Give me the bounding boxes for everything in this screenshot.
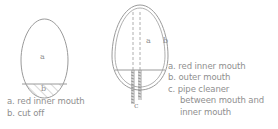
left-label-b: b: [41, 84, 46, 93]
right-legend-c-line3: inner mouth: [180, 107, 231, 117]
pipe-cleaner-fuzzy-1: [131, 70, 134, 104]
right-label-b: b: [163, 36, 168, 45]
left-label-a: a: [40, 52, 45, 61]
right-legend-b: b. outer mouth: [168, 72, 230, 82]
right-legend-a: a. red inner mouth: [168, 61, 246, 71]
right-label-c: c: [134, 101, 138, 110]
pipe-cleaner-fuzzy-2: [138, 70, 141, 100]
right-label-a: a: [146, 36, 151, 45]
left-legend-b: b. cut off: [7, 108, 44, 118]
left-legend-a: a. red inner mouth: [7, 96, 85, 106]
right-legend-c-line2: between mouth and: [180, 95, 264, 105]
right-egg-shape: [112, 5, 168, 104]
right-legend-c: c. pipe cleaner: [168, 84, 229, 94]
